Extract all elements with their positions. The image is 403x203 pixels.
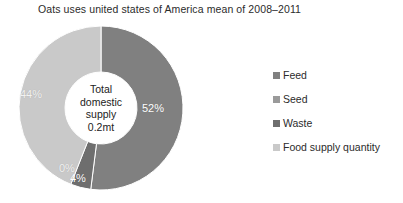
legend-swatch-icon: [273, 96, 280, 103]
legend-item-feed[interactable]: Feed: [273, 63, 399, 87]
donut-slice-feed[interactable]: [91, 26, 183, 190]
chart-figure: Oats uses united states of America mean …: [0, 0, 403, 203]
page-title: Oats uses united states of America mean …: [38, 3, 301, 16]
legend-item-label: Feed: [283, 69, 307, 81]
legend-item-seed[interactable]: Seed: [273, 87, 399, 111]
legend-item-label: Food supply quantity: [283, 141, 380, 153]
legend-item-waste[interactable]: Waste: [273, 111, 399, 135]
legend-swatch-icon: [273, 144, 280, 151]
legend-swatch-icon: [273, 120, 280, 127]
donut-chart: Totaldomesticsupply0.2mt: [19, 26, 183, 190]
donut-svg: [19, 26, 183, 190]
chart-legend: FeedSeedWasteFood supply quantity: [273, 63, 399, 159]
donut-slices: [19, 26, 183, 190]
legend-item-label: Seed: [283, 93, 308, 105]
legend-swatch-icon: [273, 72, 280, 79]
legend-item-food-supply-quantity[interactable]: Food supply quantity: [273, 135, 399, 159]
legend-item-label: Waste: [283, 117, 312, 129]
